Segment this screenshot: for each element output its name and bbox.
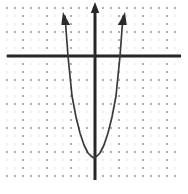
coordinate-plane-svg [0, 0, 188, 194]
graph-figure [0, 0, 188, 194]
